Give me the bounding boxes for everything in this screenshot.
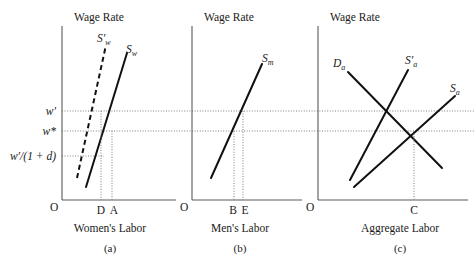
x-tick-b: B bbox=[229, 204, 237, 216]
panel-a: Wage Rate S′w Sw w′ w* w′/(1 + d) O D A bbox=[10, 11, 176, 255]
curve-s-a bbox=[354, 96, 455, 187]
curve-label-s-prime-a: S′a bbox=[405, 54, 417, 69]
x-tick-a: A bbox=[110, 204, 119, 216]
labor-supply-diagram: Wage Rate S′w Sw w′ w* w′/(1 + d) O D A bbox=[0, 0, 474, 268]
panel-c-caption: (c) bbox=[394, 242, 407, 255]
panel-b: Wage Rate Sm O B E Men's Labor (b) bbox=[180, 11, 302, 255]
panel-b-origin-label: O bbox=[180, 201, 188, 213]
curve-label-d-a: Da bbox=[332, 57, 345, 72]
panel-a-origin-label: O bbox=[50, 201, 58, 213]
curve-s-m bbox=[211, 64, 262, 178]
x-tick-d: D bbox=[97, 204, 105, 216]
panel-b-caption: (b) bbox=[234, 242, 247, 255]
panel-a-y-axis-title: Wage Rate bbox=[74, 11, 124, 24]
panel-c-origin-label: O bbox=[306, 201, 314, 213]
curve-label-s-w: Sw bbox=[126, 43, 138, 58]
y-tick-w-prime-over-1-plus-d: w′/(1 + d) bbox=[10, 150, 56, 163]
panel-a-caption: (a) bbox=[104, 242, 117, 255]
curve-label-s-a: Sa bbox=[450, 82, 460, 97]
curve-label-s-prime-w: S′w bbox=[97, 32, 111, 47]
x-tick-c: C bbox=[410, 204, 418, 216]
curve-label-s-m: Sm bbox=[262, 52, 274, 67]
panel-b-y-axis-title: Wage Rate bbox=[204, 11, 254, 24]
panel-c-y-axis-title: Wage Rate bbox=[330, 11, 380, 24]
y-tick-w-prime: w′ bbox=[46, 105, 57, 117]
x-tick-e: E bbox=[241, 204, 248, 216]
economics-figure: Wage Rate S′w Sw w′ w* w′/(1 + d) O D A bbox=[0, 0, 474, 268]
panel-b-x-axis-title: Men's Labor bbox=[211, 222, 269, 234]
curve-s-w bbox=[86, 53, 127, 187]
y-tick-w-star: w* bbox=[43, 125, 57, 137]
panel-c-x-axis-title: Aggregate Labor bbox=[361, 222, 439, 235]
panel-a-x-axis-title: Women's Labor bbox=[74, 222, 147, 234]
panel-c: Wage Rate Da S′a Sa O C Aggregate Labor … bbox=[306, 11, 468, 255]
